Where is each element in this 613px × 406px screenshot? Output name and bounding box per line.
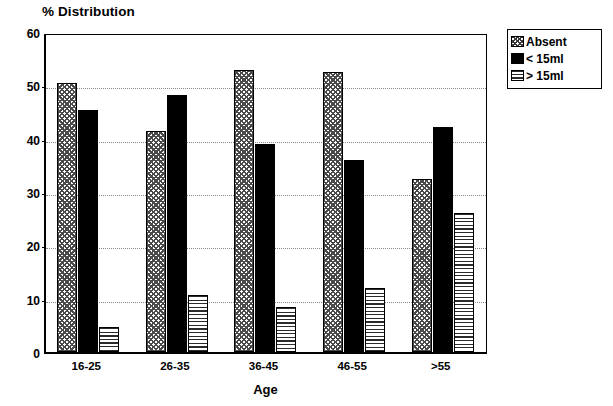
- legend-label: Absent: [526, 36, 567, 48]
- y-axis-tick-label: 0: [6, 347, 40, 361]
- y-axis-tick-label: 20: [6, 240, 40, 254]
- x-axis-tick-label: 26-35: [160, 360, 189, 372]
- chart-title: % Distribution: [42, 4, 135, 19]
- bar: [412, 179, 432, 352]
- y-axis-tick-mark: [42, 141, 46, 142]
- x-axis-tick-label: >55: [431, 360, 451, 372]
- legend-label: < 15ml: [526, 53, 564, 65]
- bar: [167, 95, 187, 352]
- bar: [276, 307, 296, 352]
- y-axis-tick-label: 40: [6, 134, 40, 148]
- y-axis-tick-label: 10: [6, 294, 40, 308]
- x-axis: 16-2526-3536-4546-55>55: [44, 360, 487, 378]
- bar: [344, 160, 364, 352]
- bar-group: [46, 35, 135, 352]
- plot-area: [44, 34, 487, 354]
- bar: [78, 110, 98, 352]
- y-axis-tick-label: 30: [6, 187, 40, 201]
- plot-inner: [46, 35, 486, 352]
- bar-chart: % Distribution 0102030405060 16-2526-353…: [0, 0, 613, 406]
- y-axis-tick-mark: [42, 194, 46, 195]
- bar-group: [223, 35, 312, 352]
- bar: [255, 144, 275, 352]
- legend-item-lt15ml: < 15ml: [511, 50, 598, 67]
- bar-group: [135, 35, 224, 352]
- x-axis-tick-label: 16-25: [72, 360, 101, 372]
- y-axis-tick-mark: [42, 247, 46, 248]
- x-axis-tick-label: 46-55: [337, 360, 366, 372]
- bar: [433, 127, 453, 352]
- bar: [234, 70, 254, 352]
- legend-item-gt15ml: > 15ml: [511, 67, 598, 84]
- horizontal-lines-swatch-icon: [511, 70, 524, 81]
- bar: [365, 288, 385, 352]
- y-axis-tick-mark: [42, 301, 46, 302]
- bar: [99, 327, 119, 352]
- y-axis: 0102030405060: [0, 34, 40, 354]
- solid-black-swatch-icon: [511, 53, 524, 64]
- legend: Absent < 15ml > 15ml: [507, 29, 602, 89]
- x-axis-title: Age: [44, 382, 487, 397]
- bar-group: [400, 35, 489, 352]
- legend-label: > 15ml: [526, 70, 564, 82]
- x-axis-tick-label: 36-45: [249, 360, 278, 372]
- bar: [57, 83, 77, 352]
- crosshatch-swatch-icon: [511, 36, 524, 47]
- y-axis-tick-label: 60: [6, 27, 40, 41]
- bar: [454, 213, 474, 352]
- bar-group: [312, 35, 401, 352]
- bar: [146, 131, 166, 352]
- legend-item-absent: Absent: [511, 33, 598, 50]
- y-axis-tick-mark: [42, 87, 46, 88]
- bar: [323, 72, 343, 352]
- y-axis-tick-label: 50: [6, 80, 40, 94]
- bar: [188, 295, 208, 352]
